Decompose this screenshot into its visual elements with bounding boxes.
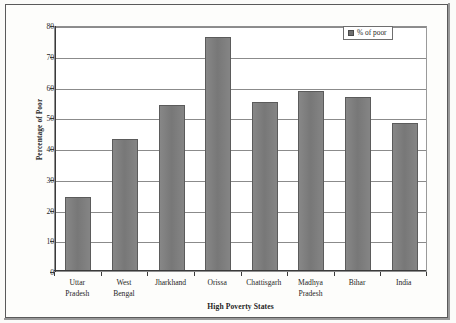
x-tick-mark <box>380 272 381 276</box>
chart-outer-frame: Percentage of Poor 01020304050607080 Utt… <box>5 4 448 318</box>
y-axis-line <box>55 26 56 272</box>
bar-slot <box>148 27 195 271</box>
x-category-label: Orissa <box>207 278 226 289</box>
bar[interactable] <box>65 197 91 271</box>
bars-layer <box>55 27 426 271</box>
x-tick-mark <box>287 272 288 276</box>
legend-entry-label: % of poor <box>357 29 387 36</box>
x-category-label: Bihar <box>349 278 366 289</box>
x-category-label: UttarPradesh <box>65 278 89 299</box>
x-tick-mark <box>194 272 195 276</box>
bar[interactable] <box>112 139 138 271</box>
chart-legend: % of poor <box>343 26 393 40</box>
chart-canvas: Percentage of Poor 01020304050607080 Utt… <box>16 13 452 319</box>
chart-screenshot: Percentage of Poor 01020304050607080 Utt… <box>0 0 456 323</box>
bar-slot <box>288 27 335 271</box>
plot-area <box>54 26 427 272</box>
x-axis-title: High Poverty States <box>54 302 427 311</box>
bar[interactable] <box>298 91 324 271</box>
x-tick-mark <box>101 272 102 276</box>
x-tick-mark <box>147 272 148 276</box>
x-category-label: Chattisgarh <box>246 278 281 289</box>
y-axis-tick-labels: 01020304050607080 <box>16 26 54 272</box>
x-category-label: Jharkhand <box>155 278 186 289</box>
bar-slot <box>102 27 149 271</box>
bar-slot <box>335 27 382 271</box>
x-tick-mark <box>54 272 55 276</box>
bar-slot <box>242 27 289 271</box>
x-tick-mark <box>334 272 335 276</box>
bar[interactable] <box>345 97 371 271</box>
bar[interactable] <box>159 105 185 271</box>
x-axis-line <box>54 270 426 271</box>
bar-slot <box>55 27 102 271</box>
legend-swatch-icon <box>348 30 354 36</box>
x-tick-mark <box>241 272 242 276</box>
bar[interactable] <box>392 123 418 271</box>
bar-slot <box>381 27 428 271</box>
x-category-label: India <box>396 278 412 289</box>
bar[interactable] <box>205 37 231 271</box>
x-category-label: MadhyaPradesh <box>298 278 323 299</box>
bar-slot <box>195 27 242 271</box>
x-category-label: WestBengal <box>113 278 135 299</box>
bar[interactable] <box>252 102 278 271</box>
x-tick-mark <box>426 272 427 276</box>
